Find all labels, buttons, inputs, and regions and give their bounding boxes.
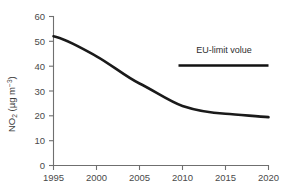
x-tick-label-2015: 2015 [215,172,236,183]
x-tick-label-1995: 1995 [43,172,64,183]
y-tick-label-30: 30 [34,86,45,97]
y-axis-unit-open: (µg m [6,87,17,114]
y-tick-label-60: 60 [34,11,45,22]
x-tick-label-2020: 2020 [258,172,279,183]
y-axis-unit-close: ) [6,76,17,79]
y-tick-label-40: 40 [34,61,45,72]
x-tick-label-2010: 2010 [172,172,193,183]
y-tick-label-0: 0 [40,160,45,171]
eu-limit-label: EU-limit volue [196,45,252,55]
y-axis-species: NO [6,118,17,132]
chart-container: 0 10 20 30 40 50 60 1995 2000 2005 2010 … [0,0,290,196]
x-tick-label-2005: 2005 [129,172,150,183]
y-tick-label-10: 10 [34,135,45,146]
x-tick-label-2000: 2000 [86,172,107,183]
no2-trend-line-chart: 0 10 20 30 40 50 60 1995 2000 2005 2010 … [0,0,290,196]
y-tick-label-20: 20 [34,110,45,121]
y-tick-label-50: 50 [34,36,45,47]
